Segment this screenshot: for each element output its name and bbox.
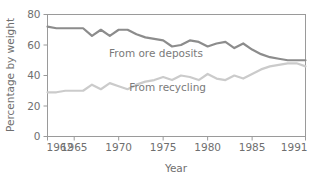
- series-label-from-ore-deposits: From ore deposits: [109, 47, 203, 59]
- y-tick-label: 40: [27, 69, 40, 81]
- y-tick-label: 20: [27, 100, 40, 112]
- y-tick-label: 60: [27, 39, 40, 51]
- y-tick-label: 0: [34, 130, 41, 142]
- chart-container: 020406080 1962196519701975198019851991 F…: [0, 0, 327, 180]
- series-annotations: From ore depositsFrom recycling: [109, 47, 206, 93]
- x-axis-tick-labels: 1962196519701975198019851991: [47, 141, 308, 153]
- y-axis-ticks: [44, 15, 48, 137]
- plot-frame: [48, 15, 306, 137]
- line-chart: 020406080 1962196519701975198019851991 F…: [0, 0, 327, 180]
- y-axis-tick-labels: 020406080: [27, 8, 40, 142]
- y-axis-title: Percentage by weight: [4, 18, 16, 132]
- x-tick-label: 1975: [150, 141, 177, 153]
- x-tick-label: 1980: [194, 141, 221, 153]
- x-tick-label: 1985: [239, 141, 266, 153]
- x-axis-title: Year: [164, 162, 188, 174]
- y-tick-label: 80: [27, 8, 40, 20]
- series-label-from-recycling: From recycling: [129, 81, 206, 93]
- x-tick-label: 1970: [105, 141, 132, 153]
- x-tick-label: 1965: [61, 141, 88, 153]
- x-tick-label: 1991: [281, 141, 308, 153]
